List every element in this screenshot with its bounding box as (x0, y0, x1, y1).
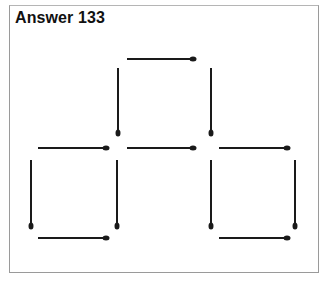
matchstick-top (127, 57, 197, 62)
matchstick-head (116, 130, 121, 137)
matchstick-middle-right (219, 146, 291, 151)
matchstick-head (103, 236, 110, 241)
matchstick-lower-far-right-vertical (293, 160, 298, 230)
matchstick-head (293, 223, 298, 230)
matchstick-upper-right-vertical (209, 68, 214, 137)
matchstick-head (190, 146, 197, 151)
matchstick-head (284, 146, 291, 151)
matchstick-lower-center-right-vertical (209, 160, 214, 230)
matchstick-head (209, 130, 214, 137)
matchstick-lower-far-left-vertical (29, 160, 34, 230)
matchstick-head (209, 223, 214, 230)
matchstick-middle-left (38, 146, 110, 151)
matchstick-middle-center (127, 146, 197, 151)
matchstick-head (284, 236, 291, 241)
matchstick-lower-center-left-vertical (115, 160, 120, 230)
matchstick-head (115, 223, 120, 230)
matchstick-bottom-right (219, 236, 291, 241)
matchstick-head (29, 223, 34, 230)
matchstick-head (190, 57, 197, 62)
matchstick-upper-left-vertical (116, 68, 121, 137)
matchstick-puzzle (0, 0, 325, 281)
matchstick-bottom-left (38, 236, 110, 241)
matchstick-head (103, 146, 110, 151)
